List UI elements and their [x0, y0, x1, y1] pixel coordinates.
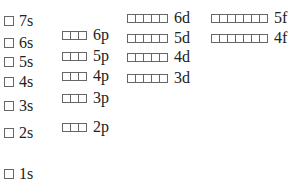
- orbital-5f: 5f: [211, 10, 287, 26]
- orbital-5s: 5s: [4, 54, 33, 70]
- orbital-box-icon: [78, 31, 87, 40]
- orbital-boxes: [127, 74, 168, 83]
- orbital-6p: 6p: [62, 27, 109, 43]
- orbital-box-icon: [259, 14, 268, 23]
- orbital-box-icon: [4, 16, 14, 26]
- orbital-2p: 2p: [62, 119, 109, 135]
- orbital-3d: 3d: [127, 70, 190, 86]
- orbital-label: 3s: [19, 98, 33, 114]
- orbital-boxes: [62, 31, 87, 40]
- orbital-box-icon: [78, 52, 87, 61]
- orbital-5p: 5p: [62, 48, 109, 64]
- orbital-7s: 7s: [4, 13, 33, 29]
- orbital-6d: 6d: [127, 10, 190, 26]
- orbital-label: 6s: [19, 35, 33, 51]
- orbital-4p: 4p: [62, 68, 109, 84]
- orbital-label: 3p: [93, 90, 109, 106]
- orbital-4f: 4f: [211, 30, 287, 46]
- orbital-label: 4d: [174, 49, 190, 65]
- orbital-boxes: [211, 14, 268, 23]
- orbital-box-icon: [4, 77, 14, 87]
- orbital-6s: 6s: [4, 35, 33, 51]
- orbital-box-icon: [78, 123, 87, 132]
- orbital-boxes: [4, 16, 14, 26]
- orbital-box-icon: [78, 94, 87, 103]
- orbital-boxes: [127, 53, 168, 62]
- orbital-5d: 5d: [127, 30, 190, 46]
- orbital-label: 6d: [174, 10, 190, 26]
- orbital-label: 2p: [93, 119, 109, 135]
- orbital-box-icon: [159, 34, 168, 43]
- orbital-3p: 3p: [62, 90, 109, 106]
- orbital-label: 4s: [19, 74, 33, 90]
- orbital-label: 4f: [274, 30, 287, 46]
- orbital-boxes: [62, 94, 87, 103]
- orbital-3s: 3s: [4, 98, 33, 114]
- orbital-label: 5s: [19, 54, 33, 70]
- orbital-boxes: [127, 14, 168, 23]
- orbital-boxes: [4, 77, 14, 87]
- orbital-boxes: [4, 128, 14, 138]
- orbital-box-icon: [78, 72, 87, 81]
- orbital-boxes: [127, 34, 168, 43]
- orbital-label: 3d: [174, 70, 190, 86]
- orbital-label: 7s: [19, 13, 33, 29]
- orbital-box-icon: [4, 128, 14, 138]
- orbital-boxes: [62, 52, 87, 61]
- orbital-box-icon: [259, 34, 268, 43]
- orbital-2s: 2s: [4, 125, 33, 141]
- orbital-boxes: [4, 38, 14, 48]
- orbital-1s: 1s: [4, 166, 33, 182]
- orbital-4d: 4d: [127, 49, 190, 65]
- orbital-box-icon: [4, 38, 14, 48]
- orbital-label: 5f: [274, 10, 287, 26]
- orbital-boxes: [62, 123, 87, 132]
- orbital-box-icon: [159, 14, 168, 23]
- orbital-box-icon: [4, 57, 14, 67]
- orbital-boxes: [211, 34, 268, 43]
- orbital-boxes: [4, 57, 14, 67]
- orbital-label: 1s: [19, 166, 33, 182]
- orbital-label: 4p: [93, 68, 109, 84]
- orbital-box-icon: [159, 53, 168, 62]
- orbital-boxes: [4, 101, 14, 111]
- orbital-box-icon: [159, 74, 168, 83]
- orbital-box-icon: [4, 169, 14, 179]
- orbital-4s: 4s: [4, 74, 33, 90]
- orbital-label: 5p: [93, 48, 109, 64]
- orbital-boxes: [4, 169, 14, 179]
- orbital-label: 6p: [93, 27, 109, 43]
- orbital-boxes: [62, 72, 87, 81]
- orbital-label: 5d: [174, 30, 190, 46]
- orbital-box-icon: [4, 101, 14, 111]
- orbital-label: 2s: [19, 125, 33, 141]
